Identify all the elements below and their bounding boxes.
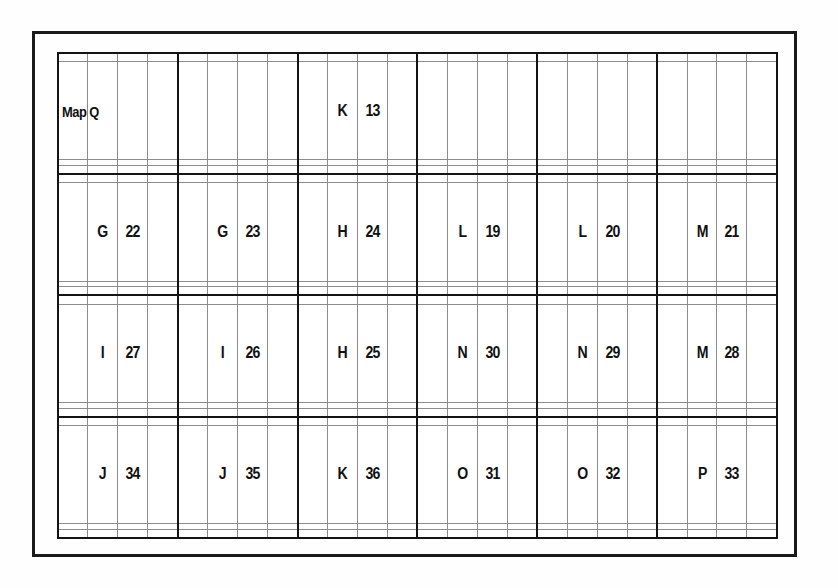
grid-cell[interactable] (597, 408, 627, 417)
grid-cell[interactable] (627, 183, 657, 281)
grid-cell[interactable] (477, 287, 507, 296)
grid-cell[interactable] (387, 304, 417, 402)
grid-cell[interactable] (687, 166, 717, 175)
grid-cell[interactable] (507, 408, 537, 417)
grid-cell[interactable] (477, 53, 507, 62)
grid-cell[interactable] (358, 408, 388, 417)
grid-cell[interactable] (268, 174, 298, 183)
grid-cell[interactable] (747, 425, 777, 523)
zone-number-cell[interactable]: 22 (118, 183, 148, 281)
grid-cell[interactable] (58, 295, 88, 304)
zone-number-cell[interactable]: 31 (477, 425, 507, 523)
grid-cell[interactable] (717, 287, 747, 296)
grid-cell[interactable] (537, 174, 567, 183)
grid-cell[interactable] (597, 417, 627, 426)
grid-cell[interactable] (747, 304, 777, 402)
grid-cell[interactable] (657, 53, 687, 62)
grid-cell[interactable] (507, 295, 537, 304)
grid-cell[interactable] (148, 304, 178, 402)
grid-cell[interactable] (328, 529, 358, 538)
zone-number-cell[interactable]: 21 (717, 183, 747, 281)
grid-cell[interactable] (477, 62, 507, 160)
grid-cell[interactable] (657, 295, 687, 304)
zone-number-cell[interactable]: 34 (118, 425, 148, 523)
zone-letter-cell[interactable]: J (88, 425, 118, 523)
grid-cell[interactable] (687, 408, 717, 417)
grid-cell[interactable] (567, 417, 597, 426)
grid-cell[interactable] (387, 529, 417, 538)
grid-cell[interactable] (238, 53, 268, 62)
grid-cell[interactable] (627, 425, 657, 523)
grid-cell[interactable] (298, 304, 328, 402)
grid-cell[interactable] (387, 174, 417, 183)
grid-cell[interactable] (328, 287, 358, 296)
grid-cell[interactable] (58, 183, 88, 281)
grid-cell[interactable] (537, 304, 567, 402)
grid-cell[interactable] (507, 417, 537, 426)
grid-cell[interactable] (417, 166, 447, 175)
grid-cell[interactable] (88, 295, 118, 304)
grid-cell[interactable] (268, 304, 298, 402)
grid-cell[interactable] (447, 529, 477, 538)
grid-cell[interactable] (298, 62, 328, 160)
grid-cell[interactable] (567, 408, 597, 417)
grid-cell[interactable] (657, 529, 687, 538)
zone-number-cell[interactable]: 27 (118, 304, 148, 402)
zone-letter-cell[interactable]: M (687, 304, 717, 402)
grid-cell[interactable] (657, 304, 687, 402)
grid-cell[interactable] (657, 62, 687, 160)
grid-cell[interactable] (118, 62, 148, 160)
grid-cell[interactable] (298, 529, 328, 538)
grid-cell[interactable] (178, 529, 208, 538)
grid-cell[interactable] (417, 53, 447, 62)
grid-cell[interactable] (477, 295, 507, 304)
grid-cell[interactable] (148, 166, 178, 175)
zone-letter-cell[interactable]: J (208, 425, 238, 523)
grid-cell[interactable] (118, 417, 148, 426)
grid-cell[interactable] (717, 529, 747, 538)
grid-cell[interactable] (238, 529, 268, 538)
grid-cell[interactable] (358, 166, 388, 175)
grid-cell[interactable] (238, 62, 268, 160)
grid-cell[interactable] (447, 62, 477, 160)
grid-cell[interactable] (178, 417, 208, 426)
grid-cell[interactable] (148, 62, 178, 160)
grid-cell[interactable] (358, 174, 388, 183)
grid-cell[interactable] (328, 295, 358, 304)
grid-cell[interactable] (88, 62, 118, 160)
grid-cell[interactable] (208, 417, 238, 426)
grid-cell[interactable] (238, 287, 268, 296)
grid-cell[interactable] (238, 417, 268, 426)
grid-cell[interactable] (597, 166, 627, 175)
grid-cell[interactable] (567, 295, 597, 304)
zone-number-cell[interactable]: 36 (358, 425, 388, 523)
zone-letter-cell[interactable]: K (328, 62, 358, 160)
grid-cell[interactable] (358, 53, 388, 62)
grid-cell[interactable] (328, 166, 358, 175)
grid-cell[interactable] (687, 62, 717, 160)
grid-cell[interactable] (387, 53, 417, 62)
grid-cell[interactable] (268, 408, 298, 417)
grid-cell[interactable] (477, 529, 507, 538)
grid-cell[interactable] (118, 295, 148, 304)
grid-cell[interactable] (58, 287, 88, 296)
grid-cell[interactable] (747, 287, 777, 296)
grid-cell[interactable] (507, 287, 537, 296)
zone-number-cell[interactable]: 30 (477, 304, 507, 402)
grid-cell[interactable] (747, 295, 777, 304)
grid-cell[interactable] (507, 529, 537, 538)
grid-cell[interactable] (148, 295, 178, 304)
grid-cell[interactable] (447, 174, 477, 183)
grid-cell[interactable] (58, 408, 88, 417)
grid-cell[interactable] (417, 417, 447, 426)
grid-cell[interactable] (387, 166, 417, 175)
grid-cell[interactable] (88, 174, 118, 183)
grid-cell[interactable] (178, 304, 208, 402)
grid-cell[interactable] (717, 417, 747, 426)
grid-cell[interactable] (657, 183, 687, 281)
grid-cell[interactable] (178, 62, 208, 160)
grid-cell[interactable] (208, 295, 238, 304)
grid-cell[interactable] (597, 529, 627, 538)
grid-cell[interactable] (627, 417, 657, 426)
grid-cell[interactable] (507, 304, 537, 402)
